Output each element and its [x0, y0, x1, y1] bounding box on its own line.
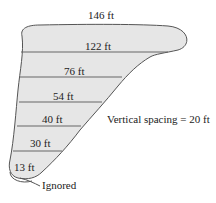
width-label-40: 40 ft [42, 114, 62, 125]
vertical-spacing-annotation: Vertical spacing = 20 ft [107, 114, 210, 125]
width-label-13: 13 ft [14, 162, 34, 173]
width-label-76: 76 ft [64, 66, 84, 77]
width-label-30: 30 ft [30, 138, 50, 149]
width-label-54: 54 ft [53, 91, 73, 102]
ignored-label: Ignored [42, 180, 76, 191]
width-label-146: 146 ft [88, 10, 114, 21]
width-label-122: 122 ft [85, 41, 111, 52]
